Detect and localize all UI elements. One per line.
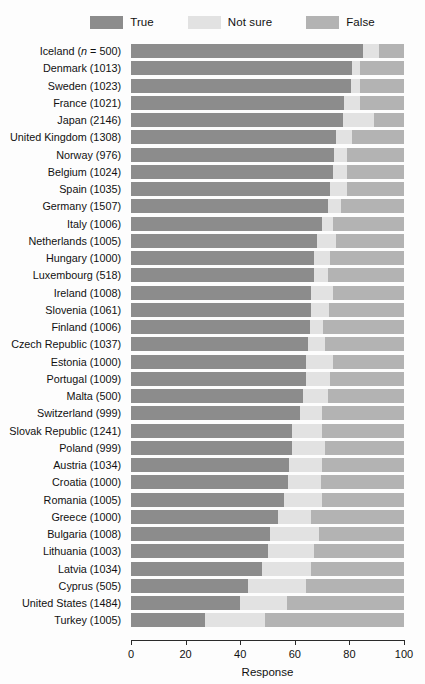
bar-row (131, 527, 404, 541)
y-axis-label: Estonia (1000) (0, 355, 126, 369)
bar-row (131, 562, 404, 576)
bar-row (131, 579, 404, 593)
bar-row (131, 596, 404, 610)
bar-segment-not-sure (292, 441, 325, 455)
bar-segment-true (131, 355, 306, 369)
y-axis-label: France (1021) (0, 96, 126, 110)
legend-entry-not-sure: Not sure (188, 16, 272, 29)
stacked-bar-chart: TrueNot sureFalse Iceland (n = 500)Denma… (0, 0, 425, 684)
bar-row (131, 234, 404, 248)
y-axis-labels: Iceland (n = 500)Denmark (1013)Sweden (1… (0, 44, 126, 636)
y-axis-label: Switzerland (999) (0, 406, 126, 420)
bar-segment-false (323, 320, 404, 334)
bar-row (131, 355, 404, 369)
bar-segment-false (352, 130, 404, 144)
y-axis-label: Czech Republic (1037) (0, 337, 126, 351)
bar-segment-true (131, 286, 311, 300)
bar-row (131, 458, 404, 472)
y-axis-label: Croatia (1000) (0, 475, 126, 489)
bar-row (131, 130, 404, 144)
bar-segment-false (333, 355, 404, 369)
x-axis-tick (295, 640, 296, 645)
y-axis-label: Ireland (1008) (0, 286, 126, 300)
legend-label: True (130, 16, 154, 28)
y-axis-label: Netherlands (1005) (0, 234, 126, 248)
y-axis-label: Luxembourg (518) (0, 268, 126, 282)
bar-segment-false (329, 303, 404, 317)
bar-segment-true (131, 458, 289, 472)
bar-row (131, 320, 404, 334)
bar-segment-not-sure (292, 424, 322, 438)
legend-entry-false: False (306, 16, 375, 29)
bar-segment-not-sure (333, 165, 347, 179)
bar-segment-true (131, 199, 328, 213)
y-axis-label: Slovenia (1061) (0, 303, 126, 317)
bar-segment-not-sure (336, 130, 352, 144)
bar-segment-false (374, 113, 404, 127)
bar-segment-true (131, 613, 205, 627)
y-axis-label: Denmark (1013) (0, 61, 126, 75)
legend-swatch-icon (188, 16, 221, 29)
y-axis-label: Greece (1000) (0, 510, 126, 524)
bar-segment-false (325, 441, 404, 455)
y-axis-label: Poland (999) (0, 441, 126, 455)
bar-segment-not-sure (352, 61, 360, 75)
bar-segment-not-sure (328, 199, 342, 213)
x-axis-title: Response (131, 666, 404, 678)
bar-row (131, 61, 404, 75)
bar-segment-not-sure (311, 303, 329, 317)
bar-row (131, 406, 404, 420)
bar-row (131, 544, 404, 558)
bar-segment-not-sure (268, 544, 314, 558)
bar-segment-not-sure (300, 406, 322, 420)
y-axis-label: Slovak Republic (1241) (0, 424, 126, 438)
bar-segment-true (131, 268, 314, 282)
bar-row (131, 510, 404, 524)
bar-segment-true (131, 320, 310, 334)
bar-row (131, 268, 404, 282)
bar-segment-false (379, 44, 404, 58)
x-axis-tick (404, 640, 405, 645)
bar-segment-false (287, 596, 404, 610)
y-axis-label: Lithuania (1003) (0, 544, 126, 558)
y-axis-label: Belgium (1024) (0, 165, 126, 179)
bar-segment-false (341, 199, 404, 213)
bar-segment-not-sure (317, 234, 336, 248)
bar-segment-not-sure (334, 148, 346, 162)
bar-row (131, 475, 404, 489)
bar-segment-false (321, 475, 404, 489)
bar-segment-not-sure (314, 251, 330, 265)
y-axis-label: Japan (2146) (0, 113, 126, 127)
y-axis-label: Norway (976) (0, 148, 126, 162)
bar-segment-not-sure (330, 182, 346, 196)
bar-segment-true (131, 44, 363, 58)
x-axis-tick-label: 80 (343, 648, 355, 660)
bar-segment-true (131, 251, 314, 265)
bar-segment-true (131, 130, 336, 144)
bar-segment-true (131, 527, 270, 541)
y-axis-label: Bulgaria (1008) (0, 527, 126, 541)
bar-row (131, 148, 404, 162)
bar-segment-false (322, 458, 404, 472)
bar-segment-true (131, 389, 303, 403)
y-axis-label: Sweden (1023) (0, 79, 126, 93)
bar-segment-true (131, 182, 330, 196)
bar-segment-true (131, 61, 352, 75)
bar-segment-true (131, 165, 333, 179)
bar-row (131, 493, 404, 507)
y-axis-label: Portugal (1009) (0, 372, 126, 386)
chart-legend: TrueNot sureFalse (0, 10, 425, 34)
legend-label: Not sure (228, 16, 272, 28)
y-axis-label: Latvia (1034) (0, 562, 126, 576)
bar-segment-not-sure (308, 337, 324, 351)
bar-row (131, 372, 404, 386)
bar-segment-false (330, 251, 404, 265)
bar-segment-not-sure (306, 372, 331, 386)
y-axis-label: Germany (1507) (0, 199, 126, 213)
bar-segment-not-sure (240, 596, 286, 610)
bar-segment-true (131, 406, 300, 420)
bar-segment-false (347, 165, 404, 179)
bar-segment-not-sure (322, 217, 333, 231)
bar-segment-true (131, 424, 292, 438)
y-axis-label: Iceland (n = 500) (0, 44, 126, 58)
